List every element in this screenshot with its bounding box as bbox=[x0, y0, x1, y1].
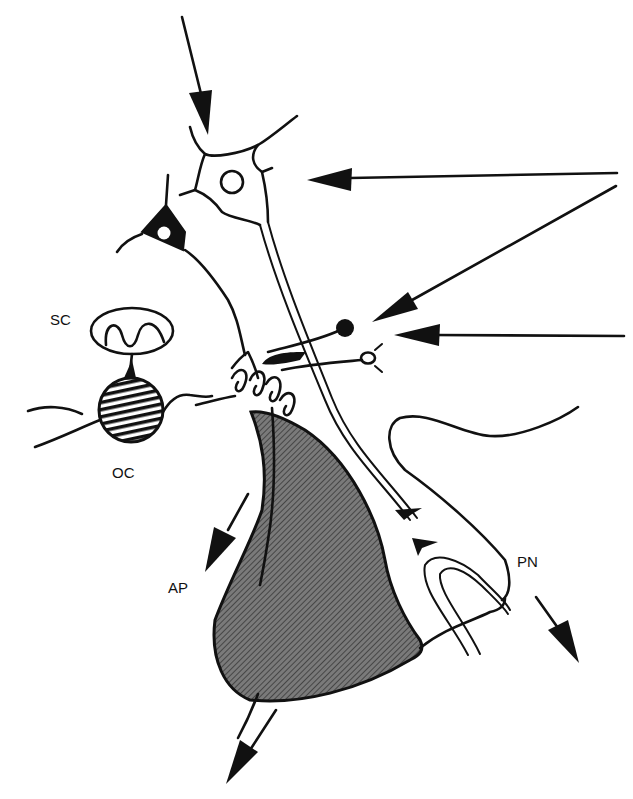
output-arrow-bottom bbox=[226, 710, 276, 784]
neuroendocrine-diagram: SC OC AP PN bbox=[0, 0, 633, 799]
anterior-pituitary bbox=[214, 408, 422, 738]
sc-oscillator bbox=[91, 308, 173, 378]
input-arrow-top bbox=[182, 17, 212, 135]
input-arrow-right-lower bbox=[394, 324, 624, 346]
label-oc: OC bbox=[112, 464, 135, 481]
label-sc: SC bbox=[50, 311, 71, 328]
pyramidal-neuron bbox=[117, 175, 258, 378]
input-arrow-right-upper bbox=[307, 168, 617, 191]
label-ap: AP bbox=[168, 579, 188, 596]
label-pn: PN bbox=[517, 553, 538, 570]
input-arrow-right-diagonal bbox=[372, 186, 616, 322]
oc-circle bbox=[28, 378, 235, 447]
output-arrow-pn bbox=[536, 597, 579, 663]
